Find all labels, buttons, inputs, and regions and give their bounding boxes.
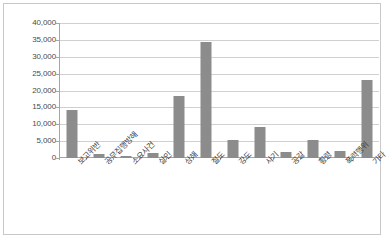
y-axis-tick-label: 5,000 [4, 137, 56, 145]
y-axis-tick-label: 35,000 [4, 36, 56, 44]
chart-frame: 40,00035,00030,00025,00020,00015,00010,0… [3, 3, 381, 235]
bar[interactable] [67, 110, 78, 158]
bar-slot [300, 23, 327, 158]
bar-slot [193, 23, 220, 158]
bar-slot [246, 23, 273, 158]
y-axis-tick-label: 30,000 [4, 53, 56, 61]
bar-slot [220, 23, 247, 158]
bar-slot [166, 23, 193, 158]
y-axis-tick-label: 10,000 [4, 120, 56, 128]
y-axis-tick-labels: 40,00035,00030,00025,00020,00015,00010,0… [4, 4, 56, 240]
bar[interactable] [201, 42, 212, 158]
y-axis-tick-label: 25,000 [4, 70, 56, 78]
bar[interactable] [174, 96, 185, 158]
y-axis-tick-label: 20,000 [4, 87, 56, 95]
bar-slot [139, 23, 166, 158]
bar-slot [353, 23, 380, 158]
bar-slot [59, 23, 86, 158]
y-axis-tick-label: 15,000 [4, 103, 56, 111]
y-axis-tick-label: 40,000 [4, 19, 56, 27]
y-axis-tick-label: 0 [4, 154, 56, 162]
bar[interactable] [308, 140, 319, 158]
bar-slot [86, 23, 113, 158]
chart-screenshot: 40,00035,00030,00025,00020,00015,00010,0… [0, 0, 386, 240]
bar-slot [327, 23, 354, 158]
x-axis-category-labels: 보고위반공무집행방해소요사건살인상해절도강도사기공갈횡령폭력행위기타 [59, 160, 380, 240]
bar[interactable] [254, 127, 265, 158]
bar[interactable] [227, 140, 238, 158]
bar-slot [273, 23, 300, 158]
bar-series [59, 23, 380, 158]
